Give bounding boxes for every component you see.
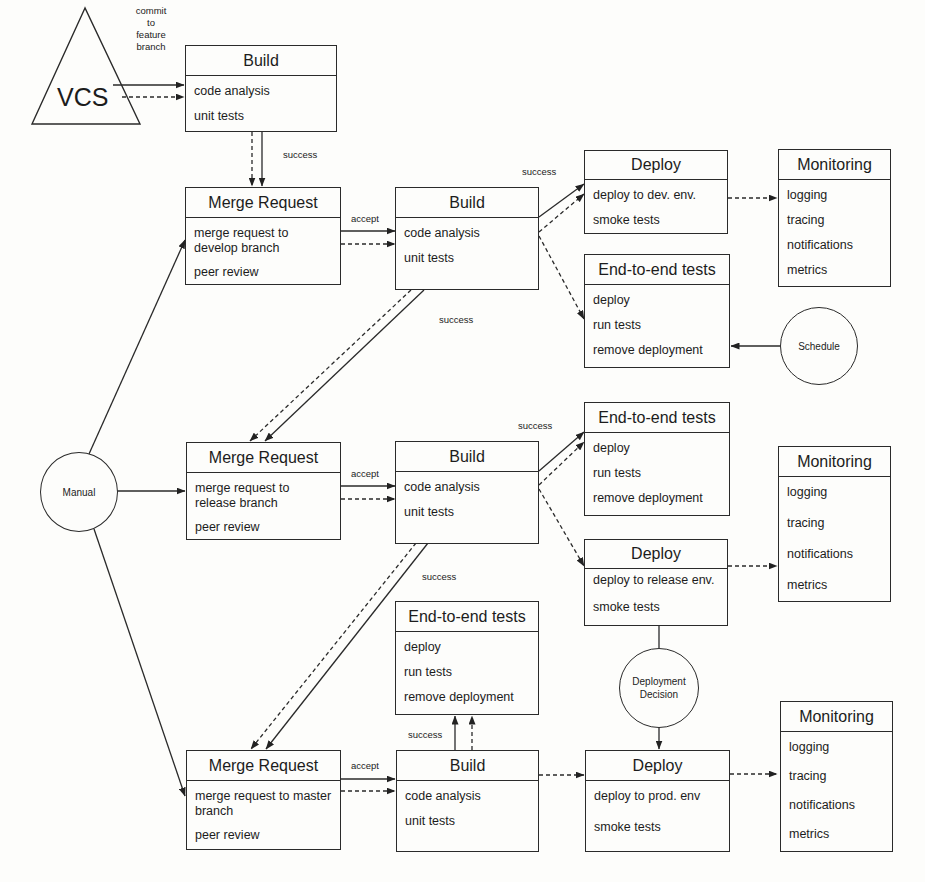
box-item: notifications — [789, 798, 892, 813]
box-item: remove deployment — [404, 690, 538, 705]
success-edge-label: success — [422, 571, 456, 583]
release-merge-request-box[interactable]: Merge Request merge request to release b… — [186, 442, 341, 540]
box-item: unit tests — [194, 109, 336, 124]
box-title: End-to-end tests — [585, 255, 729, 285]
box-title: Deploy — [585, 540, 727, 569]
release-monitoring-box[interactable]: Monitoring logging tracing notifications… — [778, 446, 891, 602]
box-title: End-to-end tests — [585, 403, 729, 433]
box-item: deploy to release env. — [593, 573, 727, 588]
box-title: Deploy — [586, 751, 729, 781]
box-item-line: merge request to — [195, 481, 340, 496]
box-item: unit tests — [404, 251, 538, 266]
box-item: notifications — [787, 238, 890, 253]
box-item: notifications — [787, 547, 890, 562]
box-item-line: release branch — [195, 496, 340, 511]
box-item: deploy to prod. env — [594, 789, 729, 804]
accept-edge-label: accept — [351, 213, 379, 225]
box-item: merge request to release branch — [195, 481, 340, 511]
box-title: Deploy — [585, 151, 727, 180]
box-item: run tests — [593, 466, 729, 481]
success-edge-label: success — [439, 314, 473, 326]
success-edge-label: success — [283, 149, 317, 161]
accept-edge-label: accept — [351, 468, 379, 480]
commit-edge-label-line: feature — [126, 29, 176, 41]
commit-edge-label-line: branch — [126, 41, 176, 53]
master-build-box[interactable]: Build code analysis unit tests — [396, 750, 539, 852]
box-item: tracing — [787, 213, 890, 228]
success-edge-label: success — [518, 420, 552, 432]
box-title: Build — [186, 46, 336, 76]
deployment-decision-line: Decision — [632, 688, 685, 701]
develop-monitoring-box[interactable]: Monitoring logging tracing notifications… — [778, 149, 891, 287]
master-e2e-tests-box[interactable]: End-to-end tests deploy run tests remove… — [395, 601, 539, 715]
box-item: metrics — [787, 578, 890, 593]
box-item: unit tests — [405, 814, 538, 829]
box-item: tracing — [787, 516, 890, 531]
box-item: code analysis — [194, 84, 336, 99]
develop-merge-request-box[interactable]: Merge Request merge request to develop b… — [185, 187, 341, 285]
box-item: peer review — [194, 265, 340, 280]
box-item: deploy — [404, 640, 538, 655]
box-item: merge request to master branch — [195, 789, 340, 819]
box-item: run tests — [404, 665, 538, 680]
box-item: metrics — [787, 263, 890, 278]
master-merge-request-box[interactable]: Merge Request merge request to master br… — [186, 750, 341, 850]
success-edge-label: success — [522, 166, 556, 178]
success-edge-label: success — [408, 729, 442, 741]
box-title: Monitoring — [779, 150, 890, 180]
release-deploy-box-body: smoke tests — [584, 596, 728, 626]
box-item: code analysis — [404, 480, 538, 495]
box-item: remove deployment — [593, 491, 729, 506]
box-title: Monitoring — [781, 702, 892, 732]
box-item: deploy — [593, 441, 729, 456]
box-item-line: merge request to — [194, 226, 340, 241]
box-item-line: merge request to master — [195, 789, 340, 804]
box-title: Build — [397, 751, 538, 781]
release-build-box[interactable]: Build code analysis unit tests — [395, 441, 539, 544]
develop-deploy-box[interactable]: Deploy deploy to dev. env. smoke tests — [584, 150, 728, 234]
box-item: unit tests — [404, 505, 538, 520]
commit-edge-label: commit to feature branch — [126, 5, 176, 53]
box-item: deploy to dev. env. — [593, 188, 727, 203]
box-title: Monitoring — [779, 447, 890, 477]
box-item-line: develop branch — [194, 241, 340, 256]
box-item: deploy — [593, 293, 729, 308]
manual-trigger[interactable]: Manual — [40, 452, 118, 532]
box-item: peer review — [195, 828, 340, 843]
box-item: tracing — [789, 769, 892, 784]
schedule-trigger[interactable]: Schedule — [780, 307, 858, 385]
develop-e2e-tests-box[interactable]: End-to-end tests deploy run tests remove… — [584, 254, 730, 368]
box-item: logging — [787, 485, 890, 500]
box-item: remove deployment — [593, 343, 729, 358]
box-item: merge request to develop branch — [194, 226, 340, 256]
box-item: smoke tests — [593, 600, 727, 615]
accept-edge-label: accept — [351, 760, 379, 772]
box-item: metrics — [789, 827, 892, 842]
commit-edge-label-line: commit — [126, 5, 176, 17]
box-item: logging — [789, 740, 892, 755]
box-title: End-to-end tests — [396, 602, 538, 632]
commit-edge-label-line: to — [126, 17, 176, 29]
box-title: Build — [396, 442, 538, 472]
box-item: smoke tests — [593, 213, 727, 228]
box-title: Merge Request — [187, 443, 340, 473]
box-item: smoke tests — [594, 820, 729, 835]
release-deploy-box[interactable]: Deploy deploy to release env. — [584, 539, 728, 598]
box-title: Build — [396, 188, 538, 218]
box-title: Merge Request — [187, 751, 340, 781]
box-item-line: branch — [195, 804, 340, 819]
develop-build-box[interactable]: Build code analysis unit tests — [395, 187, 539, 290]
box-item: logging — [787, 188, 890, 203]
vcs-label: VCS — [57, 83, 108, 112]
box-item: peer review — [195, 520, 340, 535]
master-deploy-box[interactable]: Deploy deploy to prod. env smoke tests — [585, 750, 730, 852]
release-e2e-tests-box[interactable]: End-to-end tests deploy run tests remove… — [584, 402, 730, 516]
box-item: code analysis — [405, 789, 538, 804]
deployment-decision-trigger[interactable]: Deployment Decision — [619, 648, 699, 728]
feature-build-box[interactable]: Build code analysis unit tests — [185, 45, 337, 132]
box-item: code analysis — [404, 226, 538, 241]
box-title: Merge Request — [186, 188, 340, 218]
deployment-decision-line: Deployment — [632, 675, 685, 688]
box-item: run tests — [593, 318, 729, 333]
master-monitoring-box[interactable]: Monitoring logging tracing notifications… — [780, 701, 893, 852]
